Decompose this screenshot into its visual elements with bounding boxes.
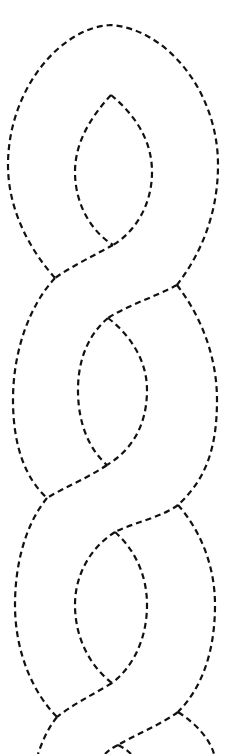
inner-lens-4-top [105, 745, 131, 754]
crossing-strand-5 [57, 683, 112, 717]
outer-right-strand-4 [178, 712, 214, 754]
outer-right-strand-3 [178, 505, 215, 712]
outer-left-strand-4 [38, 717, 57, 754]
outer-right-strand-2 [177, 285, 217, 505]
crossing-strand-4 [115, 505, 178, 532]
inner-lens-2 [78, 318, 147, 465]
crossing-strand-3 [47, 465, 107, 498]
outer-left-strand-3 [15, 498, 57, 717]
outer-left-strand-2 [13, 278, 55, 498]
crossing-strand-6 [118, 712, 178, 745]
crossing-strand-2 [108, 285, 177, 318]
crossing-strand-1 [55, 245, 113, 278]
inner-lens-1 [75, 95, 152, 245]
braid-pattern-canvas [0, 0, 228, 754]
inner-lens-3 [75, 532, 147, 683]
braid-pattern-drawing [0, 0, 228, 754]
